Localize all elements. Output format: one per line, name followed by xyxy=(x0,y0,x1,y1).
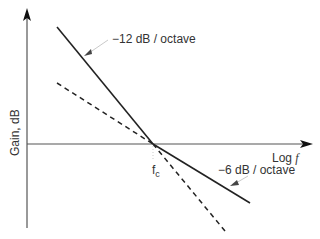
label-minus-12-db-octave: −12 dB / octave xyxy=(112,32,196,46)
dashed-minus-6-reference-line xyxy=(57,83,153,144)
corner-frequency-sub: c xyxy=(155,169,160,179)
corner-frequency-label: fc xyxy=(152,163,160,179)
leader-arrow-icon xyxy=(84,49,92,56)
y-axis xyxy=(23,8,31,228)
label-minus-6-db-octave: −6 dB / octave xyxy=(218,163,295,177)
dashed-minus-12-reference-line xyxy=(153,144,225,231)
x-axis xyxy=(27,140,313,148)
x-axis-label-var: f xyxy=(295,151,300,165)
y-axis-label: Gain, dB xyxy=(8,109,22,156)
leader-arrow-icon xyxy=(230,180,239,186)
leader-minus-12 xyxy=(84,40,108,56)
bode-diagram: −12 dB / octave −6 dB / octave Log f fc … xyxy=(0,0,320,239)
diagram-canvas: −12 dB / octave −6 dB / octave Log f fc … xyxy=(0,0,320,239)
leader-minus-6 xyxy=(230,176,248,186)
x-axis-label-prefix: Log xyxy=(272,151,295,165)
x-axis-label: Log f xyxy=(272,151,300,165)
